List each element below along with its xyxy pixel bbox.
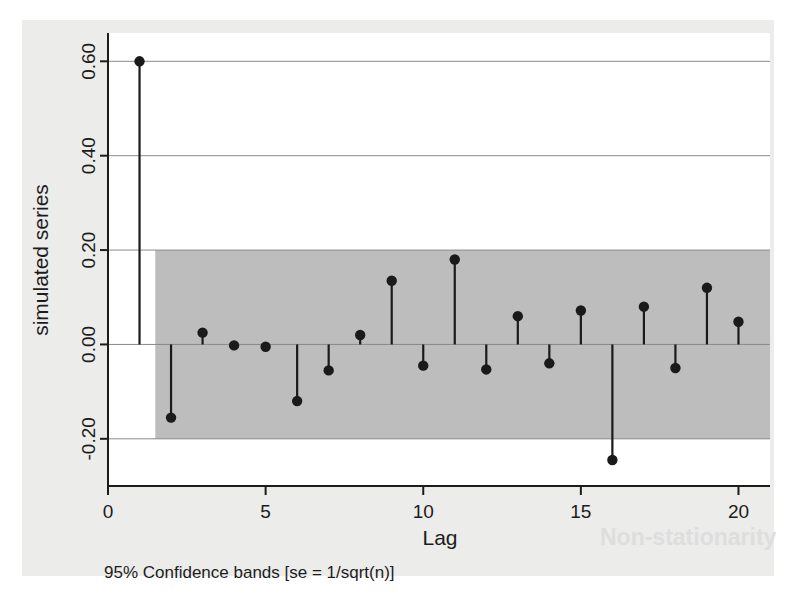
data-point-lag-14: [544, 358, 554, 368]
data-point-lag-11: [450, 254, 460, 264]
data-point-lag-10: [418, 360, 428, 370]
data-point-lag-13: [513, 311, 523, 321]
y-axis-title: simulated series: [29, 184, 52, 336]
data-point-lag-12: [481, 364, 491, 374]
data-point-lag-9: [387, 276, 397, 286]
confidence-band-note: 95% Confidence bands [se = 1/sqrt(n)]: [104, 563, 395, 582]
data-point-lag-15: [576, 305, 586, 315]
scanned-page: Non-stationarity -0.200.000.200.400.60 0…: [0, 0, 796, 610]
data-point-lag-17: [639, 301, 649, 311]
correlogram-chart: Non-stationarity -0.200.000.200.400.60 0…: [0, 0, 796, 610]
x-tick-label-1: 5: [260, 501, 271, 522]
data-point-lag-16: [607, 455, 617, 465]
data-point-lag-20: [733, 317, 743, 327]
data-point-lag-3: [197, 327, 207, 337]
svg-text:Non-stationarity: Non-stationarity: [600, 524, 777, 550]
y-tick-label-4: 0.60: [78, 43, 99, 80]
y-tick-label-2: 0.20: [78, 232, 99, 269]
y-tick-label-0: -0.20: [78, 417, 99, 460]
data-point-lag-4: [229, 340, 239, 350]
y-tick-label-3: 0.40: [78, 137, 99, 174]
y-axis-ticks: -0.200.000.200.400.60: [78, 43, 108, 461]
x-tick-label-4: 20: [728, 501, 749, 522]
data-point-lag-5: [260, 342, 270, 352]
data-point-lag-18: [670, 363, 680, 373]
x-axis-title: Lag: [422, 526, 457, 549]
data-point-lag-19: [702, 283, 712, 293]
bleed-through-ghost-text: Non-stationarity: [600, 524, 777, 550]
data-point-lag-1: [134, 56, 144, 66]
x-tick-label-3: 15: [570, 501, 591, 522]
data-point-lag-8: [355, 330, 365, 340]
data-point-lag-7: [323, 365, 333, 375]
x-tick-label-2: 10: [413, 501, 434, 522]
data-point-lag-6: [292, 396, 302, 406]
y-tick-label-1: 0.00: [78, 326, 99, 363]
data-point-lag-2: [166, 412, 176, 422]
x-tick-label-0: 0: [103, 501, 114, 522]
x-axis-ticks: 05101520: [103, 486, 749, 522]
